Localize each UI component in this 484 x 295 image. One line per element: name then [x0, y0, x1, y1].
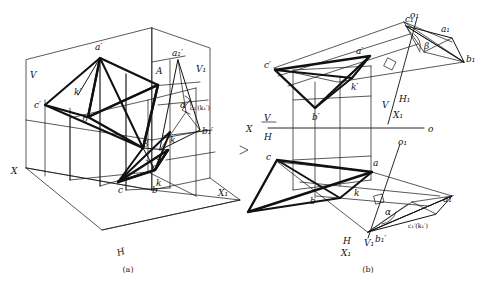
label-b-a: a: [373, 158, 378, 168]
label-a-c1k1: c₁′(k₁′): [190, 104, 210, 111]
label-b-b1-prime: b₁′: [375, 234, 386, 244]
label-b-b1: b₁: [466, 54, 475, 64]
label-a-c: c: [118, 185, 123, 195]
label-a-alpha-lower: α: [156, 152, 162, 162]
label-a-k-prime: k′: [74, 87, 82, 97]
label-b-a-prime: a′: [356, 46, 363, 56]
label-b-k-prime: k′: [351, 82, 359, 92]
label-b-v1-lower: V₁: [364, 238, 374, 248]
label-a-point-B: B: [141, 139, 149, 149]
caption-b: (b): [362, 265, 373, 274]
label-b-a1-prime: a₁′: [443, 194, 454, 204]
page-background: [0, 0, 484, 295]
label-b-c-prime: c′: [264, 60, 271, 70]
label-a-k: k: [170, 135, 175, 145]
label-b-angle-alpha: α: [385, 207, 391, 217]
label-a-a1-prime: a₁′: [172, 48, 183, 58]
label-a-axis-x: X: [10, 166, 18, 176]
label-a-c-prime: c′: [34, 100, 41, 110]
label-b-k: k: [354, 188, 359, 198]
label-b-axis-x: X: [245, 124, 253, 134]
label-a-a: a: [152, 162, 157, 172]
label-b-b: b: [310, 196, 316, 206]
label-b-x1-upper: X₁: [392, 110, 403, 120]
label-b-x1-lower: X₁: [340, 248, 351, 258]
label-b-origin-o: o: [428, 124, 434, 134]
label-a-plane-v1: V₁: [196, 64, 206, 74]
label-a-b1-prime: b₁′: [202, 126, 213, 136]
label-b-a1: a₁: [441, 24, 450, 34]
label-a-alpha-upper: α: [180, 100, 186, 110]
label-a-axis-x1: X₁: [217, 188, 228, 198]
label-b-h-lower-frac: H: [263, 132, 272, 142]
label-b-c: c: [266, 152, 271, 162]
label-b-angle-beta: β: [423, 41, 429, 51]
label-b-h-lower: H: [342, 236, 351, 246]
caption-a: (a): [122, 265, 133, 274]
geometry-figure: V V₁ H X X₁ a′ b′ c′ k′ A B k a k c b a₁…: [0, 0, 484, 295]
label-b-c1k1: c₁′(k₁′): [408, 222, 428, 229]
label-b-o1-lower: o₁: [398, 137, 407, 147]
label-a-b-prime: b′: [82, 114, 90, 124]
figure-canvas: V V₁ H X X₁ a′ b′ c′ k′ A B k a k c b a₁…: [0, 0, 484, 295]
label-a-point-A: A: [155, 66, 163, 76]
label-b-c1: c₁: [405, 14, 414, 24]
label-b-b-prime: b′: [312, 112, 320, 122]
label-a-b: b: [152, 185, 158, 195]
label-a-a-prime: a′: [95, 42, 102, 52]
label-b-h1: H₁: [398, 94, 410, 104]
